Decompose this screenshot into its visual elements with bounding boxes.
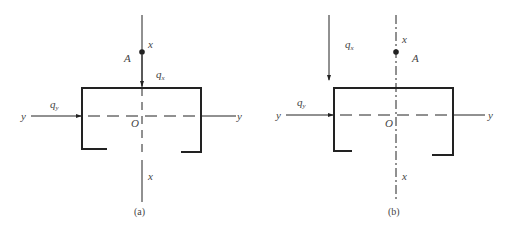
label-x-bottom: x	[401, 170, 407, 182]
label-y-left: y	[20, 110, 26, 122]
label-qx: qx	[156, 68, 166, 82]
label-x-bottom: x	[147, 170, 153, 182]
label-qy: qy	[297, 96, 307, 110]
point-a-marker	[393, 49, 399, 55]
label-qx: qx	[345, 38, 355, 52]
label-point-a: A	[411, 52, 419, 64]
diagram-canvas: x A qx qy y y O x (a) x A qx qy y y O x …	[0, 0, 509, 234]
figure-b: x A qx qy y y O x (b)	[275, 15, 493, 218]
figure-a: x A qx qy y y O x (a)	[20, 15, 242, 218]
label-qy: qy	[50, 98, 60, 112]
label-origin: O	[385, 117, 393, 129]
label-point-a: A	[123, 52, 131, 64]
channel-section	[334, 88, 453, 155]
label-x-top: x	[147, 38, 153, 50]
label-origin: O	[131, 117, 139, 129]
caption-a: (a)	[134, 206, 145, 218]
label-y-right: y	[236, 110, 242, 122]
label-x-top: x	[401, 33, 407, 45]
label-y-left: y	[275, 109, 281, 121]
caption-b: (b)	[388, 206, 400, 218]
point-a-marker	[139, 49, 145, 55]
label-y-right: y	[487, 109, 493, 121]
